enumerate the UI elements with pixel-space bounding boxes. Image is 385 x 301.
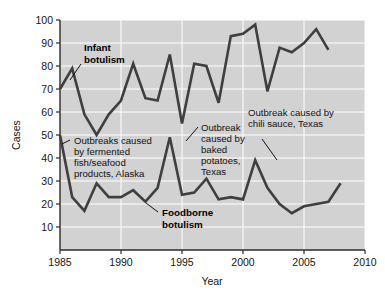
annotation-label-outbreak-baked-potatoes-texas: caused by (201, 133, 245, 144)
annotation-label-outbreak-baked-potatoes-texas: potatoes, (201, 155, 240, 166)
annotation-label-outbreak-baked-potatoes-texas: Outbreak (201, 122, 241, 133)
annotation-label-foodborne-botulism: Foodborne (162, 207, 214, 218)
y-tick-label: 80 (41, 60, 53, 72)
x-tick-label: 2010 (353, 256, 377, 268)
annotation-label-outbreak-chili-sauce-texas: chili sauce, Texas (248, 118, 323, 129)
x-axis-title: Year (201, 275, 223, 287)
annotation-label-outbreak-baked-potatoes-texas: baked (201, 144, 227, 155)
y-axis-title: Cases (10, 120, 22, 150)
annotation-label-outbreaks-fermented-alaska: Outbreaks caused (74, 135, 152, 146)
annotation-label-foodborne-botulism: botulism (162, 219, 203, 230)
annotation-label-outbreaks-fermented-alaska: by fermented (74, 146, 130, 157)
y-tick-label: 20 (41, 198, 53, 210)
y-tick-label: 50 (41, 129, 53, 141)
annotation-label-outbreak-chili-sauce-texas: Outbreak caused by (248, 107, 334, 118)
y-tick-label: 60 (41, 106, 53, 118)
y-tick-label: 10 (41, 221, 53, 233)
x-tick-label: 2000 (231, 256, 255, 268)
annotation-label-infant-botulism: Infant (84, 42, 111, 53)
botulism-cases-chart-figure: 102030405060708090100 198519901995200020… (0, 0, 385, 301)
line-chart: 102030405060708090100 198519901995200020… (0, 0, 385, 301)
x-tick-label: 1995 (170, 256, 194, 268)
y-tick-label: 40 (41, 152, 53, 164)
x-tick-label: 2005 (292, 256, 316, 268)
annotation-label-outbreaks-fermented-alaska: fish/seafood (74, 157, 126, 168)
annotation-label-outbreak-baked-potatoes-texas: Texas (201, 166, 226, 177)
annotation-label-infant-botulism: botulism (84, 54, 125, 65)
x-tick-label: 1985 (48, 256, 72, 268)
y-tick-label: 70 (41, 83, 53, 95)
x-tick-label: 1990 (109, 256, 133, 268)
annotation-label-outbreaks-fermented-alaska: products, Alaska (74, 168, 145, 179)
y-tick-label: 30 (41, 175, 53, 187)
y-tick-label: 90 (41, 37, 53, 49)
y-tick-label: 100 (35, 14, 53, 26)
